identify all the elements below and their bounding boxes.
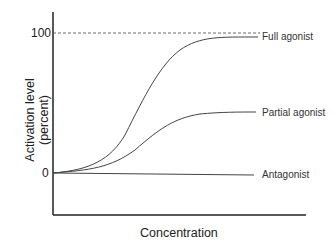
antagonist-curve	[53, 173, 254, 175]
label-antagonist: Antagonist	[262, 169, 309, 180]
partial-agonist-curve	[53, 112, 256, 173]
label-partial-agonist: Partial agonist	[262, 107, 325, 118]
y-axis-label: Activation level (percent)	[23, 55, 51, 185]
x-axis-label: Concentration	[140, 226, 218, 240]
y-tick-100: 100	[31, 26, 51, 40]
full-agonist-curve	[53, 37, 258, 173]
label-full-agonist: Full agonist	[262, 31, 313, 42]
y-axis-label-line1: Activation level	[23, 55, 37, 185]
y-axis-label-line2: (percent)	[37, 55, 51, 185]
